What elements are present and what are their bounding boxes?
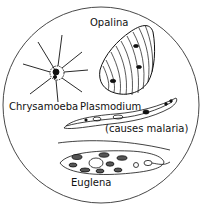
label-opalina: Opalina: [90, 17, 128, 28]
label-plasmodium-note: (causes malaria): [105, 123, 188, 134]
label-chrysamoeba: Chrysamoeba: [9, 101, 78, 112]
label-plasmodium: Plasmodium: [80, 101, 141, 112]
euglena-drawing: [58, 141, 170, 175]
label-euglena: Euglena: [71, 177, 111, 188]
chrysamoeba-drawing: [23, 35, 88, 102]
opalina-drawing: [100, 25, 155, 95]
